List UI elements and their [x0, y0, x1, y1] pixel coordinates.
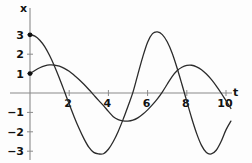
initial-point-marker — [28, 32, 33, 37]
plot-figure: 246810 321−1−2−3 x t — [0, 0, 252, 163]
y-tick-label: 1 — [16, 68, 24, 81]
plot-canvas: 246810 321−1−2−3 — [0, 0, 252, 163]
y-tick-label: −1 — [7, 106, 24, 119]
y-axis-label: x — [20, 2, 27, 15]
initial-point-marker — [28, 71, 33, 76]
y-tick-label: −2 — [7, 126, 24, 139]
x-axis-label: t — [233, 86, 238, 99]
y-tick-label: 2 — [16, 48, 24, 61]
y-tick-label: 3 — [16, 29, 24, 42]
y-tick-label: −3 — [7, 145, 24, 158]
